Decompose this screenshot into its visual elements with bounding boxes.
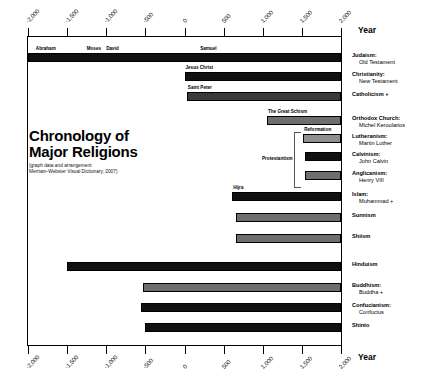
row-label-secondary: Muhammad + xyxy=(352,198,393,205)
row-label-primary: Buddhism: xyxy=(352,282,383,289)
tick-label-bottom-3: -500 xyxy=(142,358,154,370)
row-label-primary: Confucianism: xyxy=(352,302,391,309)
tick-top-8 xyxy=(341,28,342,36)
tick-bottom-3 xyxy=(145,346,146,354)
row-label-lutheranism: Lutheranism:Martin Luther xyxy=(352,133,392,147)
title-block: Chronology of Major Religions (graph dat… xyxy=(29,128,199,175)
axis-label-top: Year xyxy=(358,25,376,35)
row-label-buddhism: Buddhism:Buddha + xyxy=(352,282,383,296)
row-label-islam: Islam:Muhammad + xyxy=(352,191,393,205)
row-label-secondary: Confucius xyxy=(352,309,391,316)
row-label-hinduism: Hinduism xyxy=(352,261,377,268)
protestantism-bracket-label: Protestantism xyxy=(262,156,293,161)
row-label-secondary: John Calvin xyxy=(352,158,388,165)
tick-top-5 xyxy=(224,28,225,36)
bar-anglicanism xyxy=(305,171,341,180)
tick-label-top-7: 1,500 xyxy=(299,9,314,24)
tick-bottom-1 xyxy=(67,346,68,354)
row-label-primary: Judaism: xyxy=(352,52,395,59)
tick-label-bottom-5: 500 xyxy=(220,359,231,370)
bar-shinto xyxy=(145,323,341,332)
tick-label-top-0: -2,000 xyxy=(25,8,41,24)
bar-buddhism xyxy=(143,283,341,292)
row-label-shinto: Shinto xyxy=(352,322,369,329)
row-label-catholicism: Catholicism + xyxy=(352,91,389,98)
bar-orthodox-church xyxy=(267,116,341,125)
tick-label-bottom-2: -1,000 xyxy=(103,354,119,370)
row-label-shiism: Shiism xyxy=(352,233,370,240)
row-label-primary: Calvinism: xyxy=(352,151,388,158)
tick-bottom-2 xyxy=(106,346,107,354)
row-label-primary: Lutheranism: xyxy=(352,133,392,140)
tick-top-6 xyxy=(263,28,264,36)
row-label-primary: Sunnism xyxy=(352,212,376,219)
tick-label-top-1: -1,500 xyxy=(64,8,80,24)
tick-label-bottom-6: 1,000 xyxy=(260,355,275,370)
chronology-chart: Year Year -2,000-1,500-1,000-50005001,00… xyxy=(0,0,433,388)
row-label-primary: Islam: xyxy=(352,191,393,198)
tick-bottom-6 xyxy=(263,346,264,354)
tick-label-top-8: 2,000 xyxy=(338,9,353,24)
tick-label-bottom-7: 1,500 xyxy=(299,355,314,370)
row-label-primary: Shiism xyxy=(352,233,370,240)
row-label-sunnism: Sunnism xyxy=(352,212,376,219)
tick-label-top-6: 1,000 xyxy=(260,9,275,24)
bar-calvinism xyxy=(305,152,341,161)
annotation-reformation: Reformation xyxy=(304,127,331,132)
annotation-jesus-christ: Jesus Christ xyxy=(186,65,214,70)
tick-top-4 xyxy=(185,28,186,36)
annotation-saint-peter: Saint Peter xyxy=(188,85,212,90)
row-label-anglicanism: Anglicanism:Henry VIII xyxy=(352,170,387,184)
row-label-secondary: Henry VIII xyxy=(352,177,387,184)
tick-bottom-4 xyxy=(185,346,186,354)
row-label-secondary: Martin Luther xyxy=(352,140,392,147)
annotation-hijra: Hijra xyxy=(233,185,243,190)
row-label-primary: Christianity: xyxy=(352,71,397,78)
axis-label-bottom: Year xyxy=(358,352,376,362)
tick-label-top-2: -1,000 xyxy=(103,8,119,24)
row-label-primary: Hinduism xyxy=(352,261,377,268)
row-label-christianity: Christianity:New Testament xyxy=(352,71,397,85)
tick-top-7 xyxy=(302,28,303,36)
tick-label-top-4: 0 xyxy=(181,17,188,24)
row-label-secondary: Buddha + xyxy=(352,289,383,296)
protestantism-bracket xyxy=(294,132,301,188)
annotation-david: David xyxy=(106,46,119,51)
bar-judaism xyxy=(28,53,341,62)
plot-area xyxy=(27,36,342,346)
tick-label-bottom-8: 2,000 xyxy=(338,355,353,370)
row-label-calvinism: Calvinism:John Calvin xyxy=(352,151,388,165)
bar-catholicism xyxy=(187,92,341,101)
annotation-abraham: Abraham xyxy=(36,46,56,51)
row-label-judaism: Judaism:Old Testament xyxy=(352,52,395,66)
tick-label-top-5: 500 xyxy=(220,13,231,24)
annotation-moses: Moses xyxy=(87,46,101,51)
tick-label-top-3: -500 xyxy=(142,12,154,24)
row-label-primary: Anglicanism: xyxy=(352,170,387,177)
tick-label-bottom-4: 0 xyxy=(181,363,188,370)
page-title-line2: Major Religions xyxy=(29,144,199,160)
bar-christianity xyxy=(185,72,342,81)
bar-hinduism xyxy=(67,262,341,271)
tick-top-1 xyxy=(67,28,68,36)
annotation-samuel: Samuel xyxy=(200,46,216,51)
annotation-the-great-schism: The Great Schism xyxy=(268,109,307,114)
bar-shiism xyxy=(236,234,341,243)
bar-confucianism xyxy=(141,303,341,312)
tick-bottom-0 xyxy=(28,346,29,354)
tick-top-3 xyxy=(145,28,146,36)
tick-bottom-7 xyxy=(302,346,303,354)
tick-bottom-8 xyxy=(341,346,342,354)
tick-bottom-5 xyxy=(224,346,225,354)
row-label-confucianism: Confucianism:Confucius xyxy=(352,302,391,316)
row-label-orthodox-church: Orthodox Church:Michel Keroularios xyxy=(352,115,405,129)
row-label-secondary: Michel Keroularios xyxy=(352,122,405,129)
bar-sunnism xyxy=(236,213,341,222)
bar-islam xyxy=(232,192,341,201)
subtitle-line2: Merriam-Webster Visual Dictionary, 2007) xyxy=(29,169,199,175)
row-label-primary: Catholicism + xyxy=(352,91,389,98)
row-label-secondary: Old Testament xyxy=(352,59,395,66)
tick-top-2 xyxy=(106,28,107,36)
row-label-primary: Shinto xyxy=(352,322,369,329)
row-label-primary: Orthodox Church: xyxy=(352,115,405,122)
